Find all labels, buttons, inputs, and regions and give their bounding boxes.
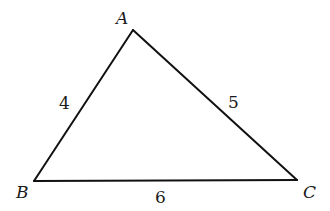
side-ab: [34, 30, 133, 181]
vertex-label-b: B: [15, 182, 29, 202]
side-label-ab: 4: [59, 93, 70, 113]
side-ac: [133, 30, 297, 180]
triangle-abc: [34, 30, 297, 181]
triangle-diagram: A B C 4 5 6: [0, 0, 330, 211]
vertex-label-c: C: [303, 182, 316, 202]
side-bc: [34, 180, 297, 181]
side-label-bc: 6: [155, 187, 166, 207]
side-label-ac: 5: [228, 92, 239, 112]
vertex-label-a: A: [114, 8, 128, 28]
